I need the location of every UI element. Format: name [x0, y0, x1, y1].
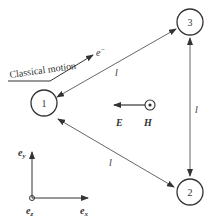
node-3: 3 — [177, 9, 203, 35]
classical-motion-label: Classical motion — [9, 60, 77, 80]
ey-label: ey — [18, 147, 26, 160]
field-vectors: E H — [114, 100, 155, 128]
node-2: 2 — [177, 179, 203, 205]
e-field-label: E — [115, 117, 123, 128]
edge-1-2: l — [58, 119, 174, 187]
coordinate-axes: ey ez ex — [18, 147, 88, 218]
diagram-canvas: 1 2 3 l l l Classical motion e− E H — [0, 0, 215, 223]
edge-1-2-label: l — [109, 157, 112, 168]
node-3-label: 3 — [188, 17, 193, 28]
h-field-label: H — [143, 117, 153, 128]
edge-1-3-label: l — [115, 67, 118, 78]
node-1-label: 1 — [42, 98, 47, 109]
node-2-label: 2 — [188, 187, 193, 198]
edge-3-2: l — [190, 38, 198, 176]
ex-label: ex — [80, 205, 88, 218]
ez-label: ez — [26, 205, 33, 218]
node-1: 1 — [31, 90, 57, 116]
classical-motion-path: Classical motion e− — [8, 46, 105, 81]
edge-3-2-label: l — [195, 104, 198, 115]
electron-label: e− — [96, 46, 105, 58]
